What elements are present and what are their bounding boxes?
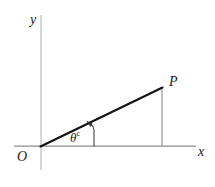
radian-superscript: c [76,129,80,138]
angle-theta-label: θc [70,131,80,144]
origin-label: O [17,150,27,164]
hypotenuse-line [41,88,163,147]
diagram-canvas [0,0,215,187]
x-axis-label: x [198,145,204,159]
y-axis-label: y [30,13,36,27]
geometry-figure: y x O P θc [0,0,215,187]
point-p-label: P [169,75,178,89]
